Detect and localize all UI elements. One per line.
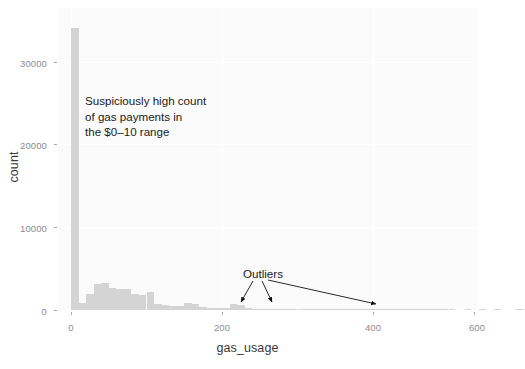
x-tick-mark-600 — [474, 312, 475, 315]
x-tick-label-600: 600 — [469, 322, 485, 333]
x-tick-mark-0 — [71, 312, 72, 315]
histogram-bar — [516, 309, 524, 310]
x-tick-label-200: 200 — [214, 322, 230, 333]
annotation-outliers: Outliers — [243, 267, 283, 281]
x-tick-label-0: 0 — [68, 322, 73, 333]
y-axis-title: count — [7, 127, 21, 207]
x-tick-mark-400 — [373, 312, 374, 315]
x-tick-mark-200 — [222, 312, 223, 315]
annotation-high-count: Suspiciously high count of gas payments … — [85, 93, 206, 140]
x-axis-title: gas_usage — [0, 341, 495, 355]
x-tick-label-400: 400 — [365, 322, 381, 333]
